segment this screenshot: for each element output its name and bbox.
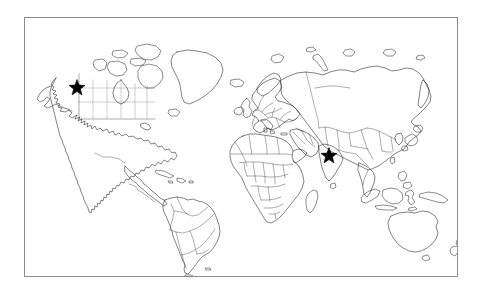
island-hispaniola [177,178,186,183]
island-new-zealand-south [450,246,457,256]
island-borneo [382,188,403,204]
coastline-northern-asia [281,66,431,170]
landmass-north-america [37,74,177,213]
island-sulawesi [405,190,415,205]
map-frame [24,17,458,277]
landmass-maritime-southeast-asia [361,171,448,211]
island-madagascar [306,190,318,213]
island-newfoundland [168,109,180,116]
island-philippines-luzon [398,171,407,181]
markers-layer [69,80,337,163]
coastline-southeast-asia [358,163,375,197]
landmass-british-isles [234,98,252,118]
island-banks [93,59,107,71]
island-franz-josef-land [306,47,316,52]
coastline-australia [388,211,438,252]
borders-middle-east [293,128,315,147]
coastline-kamchatka [418,80,429,108]
island-ellesmere [135,44,161,60]
landmass-south-america [163,197,220,276]
coastline-scandinavia [257,73,281,96]
landmass-arctic-islands [271,47,425,71]
landmass-canadian-arctic [93,44,180,116]
island-new-siberian [383,49,396,56]
island-novaya-zemlya [313,54,328,71]
coastline-africa [230,134,304,223]
border-usa-mexico [95,153,125,163]
borders-central-america [138,190,155,202]
island-new-zealand-north [456,238,457,246]
world-map-svg [25,18,457,276]
island-crete [281,133,287,135]
island-philippines-mindanao [403,182,412,189]
coastline-india [319,144,343,181]
island-melville [112,50,128,58]
borders-africa [231,135,293,219]
island-svalbard [271,54,284,63]
island-iceland [230,79,244,87]
coastline-central-america [125,166,167,206]
coastline-korea [395,133,403,145]
coastline-north-america [50,78,177,213]
figure-root [0,0,481,294]
island-severnaya-zemlya [343,49,355,56]
island-falklands [205,268,211,270]
island-cuba [155,170,174,178]
borders-south-america [170,197,215,268]
island-timor [408,207,417,211]
island-puerto-rico [189,181,193,183]
island-hokkaido [413,125,423,132]
marker-star-south-asia[interactable] [321,148,337,163]
island-tasmania [422,255,430,261]
island-jamaica [168,181,173,183]
island-victoria [107,61,127,76]
island-java [375,205,397,210]
landmass-europe [252,73,300,135]
landmass-middle-east [290,128,319,157]
coastline-horn-of-africa [293,149,307,163]
landmass-africa [230,134,318,223]
borders-asia [306,72,396,185]
coastline-great-lakes [141,123,151,130]
island-great-britain [241,98,252,118]
island-ireland [234,107,243,115]
island-wrangel [416,55,425,60]
coastline-alaska-peninsula [37,86,72,111]
island-taiwan [390,157,395,164]
island-sri-lanka [330,183,336,189]
island-sicily [270,131,275,134]
island-baffin [138,64,163,88]
borders-europe [252,96,296,128]
island-tierra-del-fuego [185,275,195,276]
marker-star-north-america[interactable] [69,80,85,95]
coastline-greenland [171,50,223,104]
border-mexico-guatemala [129,184,138,190]
landmass-australia [388,211,457,261]
landmass-greenland [171,50,223,104]
island-new-guinea [419,192,448,203]
